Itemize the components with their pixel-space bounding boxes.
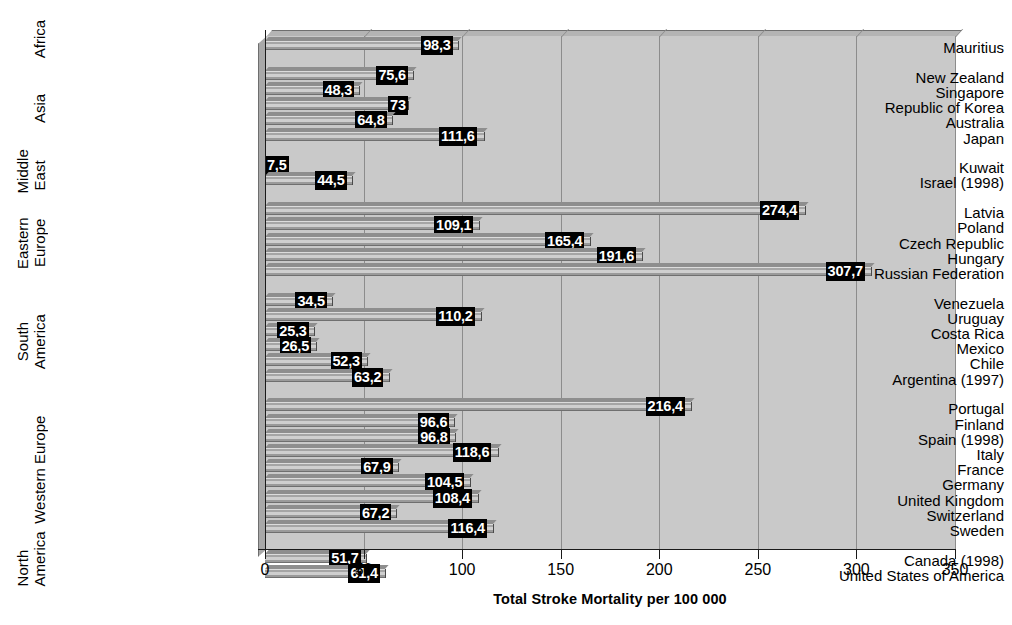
bar <box>265 237 591 246</box>
category-label: Japan <box>754 131 1012 147</box>
category-label: Australia <box>754 115 1012 131</box>
stroke-mortality-bar-chart: 98,375,648,37364,8111,67,544,5274,4109,1… <box>0 0 1012 625</box>
x-axis-tick-label: 0 <box>261 561 270 579</box>
x-axis-tick-label: 350 <box>942 561 969 579</box>
region-label-north-america: NorthAmerica <box>14 550 50 586</box>
category-label: Portugal <box>754 401 1012 417</box>
category-label: Germany <box>754 477 1012 493</box>
region-label-line: Middle <box>14 157 31 193</box>
category-label: Russian Federation <box>754 266 1012 282</box>
region-label-africa: Africa <box>31 37 49 58</box>
x-axis-tick-label: 100 <box>449 561 476 579</box>
bar-value-label: 75,6 <box>376 66 407 85</box>
bar-value-label: 98,3 <box>421 36 452 55</box>
x-axis-tick <box>659 550 660 559</box>
category-label: Sweden <box>754 523 1012 539</box>
x-axis-tick <box>265 550 266 559</box>
x-axis-tick <box>561 550 562 559</box>
region-label-line: Europe <box>31 202 48 284</box>
region-label-south-america: SouthAmerica <box>14 293 50 390</box>
bar-value-label: 216,4 <box>646 397 685 416</box>
x-axis-tick-label: 200 <box>646 561 673 579</box>
region-label-asia: Asia <box>31 67 49 149</box>
bar-value-label: 63,2 <box>352 368 383 387</box>
category-label: Poland <box>754 220 1012 236</box>
region-label-line: North <box>14 550 31 586</box>
bar-value-label: 111,6 <box>439 127 477 146</box>
region-label-eastern-europe: EasternEurope <box>14 202 50 284</box>
region-label-middle-east: MiddleEast <box>14 157 50 193</box>
category-label: Israel (1998) <box>754 175 1012 191</box>
region-label-line: South <box>14 293 31 390</box>
region-label-line: Western Europe <box>31 398 48 541</box>
region-label-line: America <box>31 293 48 390</box>
x-axis-tick-label: 150 <box>547 561 574 579</box>
x-axis-title: Total Stroke Mortality per 100 000 <box>265 591 955 607</box>
x-axis-tick-label: 50 <box>355 561 373 579</box>
category-label: United States of America <box>754 568 1012 584</box>
bar-value-label: 118,6 <box>453 443 492 462</box>
bar-value-label: 44,5 <box>315 171 346 190</box>
category-label: Spain (1998) <box>754 432 1012 448</box>
category-label: Mauritius <box>754 40 1012 56</box>
bar-value-label: 116,4 <box>448 519 487 538</box>
bar <box>265 206 806 215</box>
x-axis-tick <box>364 550 365 559</box>
bar-value-label: 108,4 <box>433 489 472 508</box>
bar-value-label: 110,2 <box>436 307 475 326</box>
region-label-line: Africa <box>31 37 48 58</box>
x-axis-tick <box>955 550 956 559</box>
bar <box>265 402 692 411</box>
x-axis-tick <box>856 550 857 559</box>
region-label-line: America <box>31 550 48 586</box>
region-label-western-europe: Western Europe <box>31 398 49 541</box>
x-axis-tick <box>462 550 463 559</box>
x-axis-tick-label: 300 <box>843 561 870 579</box>
category-label: Argentina (1997) <box>754 372 1012 388</box>
x-axis-tick-label: 250 <box>744 561 771 579</box>
region-label-line: East <box>31 157 48 193</box>
bar <box>265 252 643 261</box>
y-axis-line <box>265 30 266 551</box>
region-label-line: Eastern <box>14 202 31 284</box>
x-axis-tick <box>758 550 759 559</box>
category-label: Chile <box>754 356 1012 372</box>
region-label-line: Asia <box>31 67 48 149</box>
